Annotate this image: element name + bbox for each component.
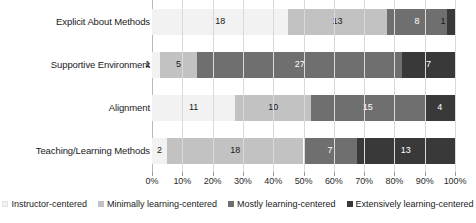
bar-segment: 7 — [304, 138, 357, 164]
bar-segment: 2 — [152, 138, 167, 164]
gridline — [394, 0, 395, 172]
legend-item[interactable]: Extensively learning-centered — [347, 199, 474, 209]
gridline — [425, 0, 426, 172]
legend-label: Instructor-centered — [11, 199, 87, 209]
category-label: Teaching/Learning Methods — [4, 145, 150, 156]
legend-label: Minimally learning-centered — [107, 199, 217, 209]
bar-value-label: 13 — [401, 146, 411, 155]
gridline — [334, 0, 335, 172]
gridline — [213, 0, 214, 172]
bar-segment: 18 — [167, 138, 303, 164]
gridline — [455, 0, 456, 172]
bar-value-label: 7 — [426, 60, 431, 69]
bar-segment: 7 — [402, 52, 455, 78]
gridline — [182, 0, 183, 172]
legend-item[interactable]: Instructor-centered — [2, 199, 87, 209]
bar-segment: 4 — [425, 95, 455, 121]
bar-value-label: 7 — [328, 146, 333, 155]
bar-value-label: 4 — [437, 103, 442, 112]
bar-segment: 18 — [152, 9, 288, 35]
legend-swatch-icon — [98, 201, 104, 207]
x-axis-tick-label: 100% — [435, 176, 475, 186]
chart-legend: Instructor-centeredMinimally learning-ce… — [0, 196, 476, 212]
bar-segment: 8 — [387, 9, 448, 35]
bar-segment: 27 — [197, 52, 402, 78]
gridline — [364, 0, 365, 172]
gridline — [243, 0, 244, 172]
bar-value-label: 18 — [215, 17, 225, 26]
bar-value-label: 18 — [230, 146, 240, 155]
bar-segment: 5 — [160, 52, 198, 78]
gridline — [273, 0, 274, 172]
bar-segment: 13 — [357, 138, 455, 164]
bar-segment: 1 — [152, 52, 160, 78]
legend-label: Mostly learning-centered — [237, 199, 336, 209]
stacked-bar-chart: Explicit About MethodsSupportive Environ… — [0, 0, 476, 223]
legend-swatch-icon — [347, 201, 353, 207]
bar-segment: 1 — [447, 9, 455, 35]
category-label: Supportive Environment — [4, 59, 150, 70]
bar-segment: 11 — [152, 95, 235, 121]
legend-label: Extensively learning-centered — [356, 199, 474, 209]
bar-value-label: 11 — [189, 103, 198, 112]
category-label: Alignment — [4, 102, 150, 113]
bar-segment: 15 — [311, 95, 425, 121]
legend-item[interactable]: Mostly learning-centered — [228, 199, 336, 209]
category-axis-labels: Explicit About MethodsSupportive Environ… — [0, 0, 150, 172]
legend-item[interactable]: Minimally learning-centered — [98, 199, 217, 209]
bar-value-label: 5 — [176, 60, 181, 69]
bar-value-label: 8 — [415, 17, 420, 26]
bar-value-label: 2 — [157, 146, 162, 155]
gridline — [304, 0, 305, 172]
legend-swatch-icon — [228, 201, 234, 207]
category-label: Explicit About Methods — [4, 16, 150, 27]
legend-swatch-icon — [2, 201, 8, 207]
